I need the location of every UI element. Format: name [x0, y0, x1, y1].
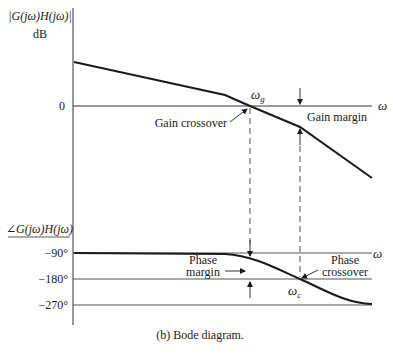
magnitude-x-axis-label: ω: [378, 98, 387, 113]
phase-crossover-label-2: crossover: [322, 265, 368, 279]
phase-tick-90: −90°: [44, 246, 68, 260]
phase-crossover-pointer: [302, 270, 318, 278]
gain-margin-label: Gain margin: [307, 110, 367, 124]
zero-db-tick: 0: [59, 99, 65, 113]
gain-crossover-label: Gain crossover: [155, 116, 227, 130]
wc-symbol: ωc: [288, 283, 301, 300]
phase-plot: [73, 200, 372, 325]
bode-diagram: |G(jω)H(jω)| dB 0 ω ωg Gain crossover Ga…: [0, 0, 393, 355]
figure-caption: (b) Bode diagram.: [156, 328, 244, 342]
phase-x-axis-label: ω: [373, 246, 382, 261]
phase-margin-label-2: margin: [186, 265, 220, 279]
phase-tick-180: −180°: [38, 272, 68, 286]
phase-tick-270: −270°: [38, 298, 68, 312]
magnitude-plot: [73, 8, 372, 200]
magnitude-ylabel-unit: dB: [33, 27, 47, 41]
gain-crossover-pointer: [230, 109, 247, 122]
magnitude-ylabel: |G(jω)H(jω)|: [8, 9, 72, 23]
phase-ylabel: ∠G(jω)H(jω): [6, 222, 73, 236]
wg-symbol: ωg: [251, 87, 265, 104]
